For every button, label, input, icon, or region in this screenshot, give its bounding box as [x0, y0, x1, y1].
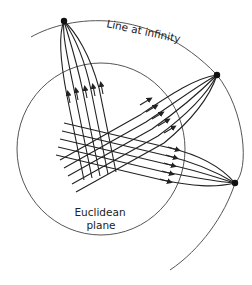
projective-plane-diagram: Line at infinity Euclidean plane	[0, 0, 252, 285]
line-at-infinity-label: Line at infinity	[106, 17, 182, 44]
line-at-infinity-arc	[31, 21, 243, 270]
euclidean-label: Euclidean	[74, 206, 125, 218]
point-at-infinity-b	[214, 72, 220, 78]
plane-label: plane	[86, 219, 115, 231]
point-at-infinity-c	[232, 180, 238, 186]
line-family-a	[60, 21, 116, 180]
point-at-infinity-a	[61, 18, 67, 24]
